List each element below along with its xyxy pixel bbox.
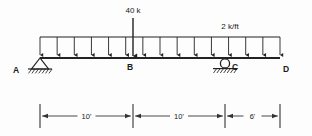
distributed-load-group: 2 k/ft [40, 22, 280, 55]
ground-hatch-tick [42, 69, 45, 73]
ground-hatch-tick [224, 69, 227, 73]
ground-hatch-tick [220, 69, 223, 73]
dimension-segment: 6' [227, 112, 278, 121]
ground-hatch-tick [46, 69, 49, 73]
dimension-label: 6' [250, 112, 256, 121]
beam-diagram: 2 k/ft 40 k ABCD 10'10'6' [0, 0, 312, 136]
dimension-segment: 10' [42, 112, 131, 121]
roller-support-circle [220, 59, 229, 68]
point-load-group: 40 k [125, 6, 141, 56]
support-pin-a [28, 58, 52, 73]
node-label-b: B [127, 62, 133, 72]
ground-hatch-tick [49, 69, 52, 73]
ground-hatch-tick [35, 69, 38, 73]
ground-hatch-tick [214, 69, 217, 73]
node-label-d: D [283, 64, 289, 74]
distributed-load-arrows [40, 37, 280, 55]
ground-hatch-tick [217, 69, 220, 73]
node-labels-group: ABCD [13, 62, 289, 75]
ground-hatch-tick [227, 69, 230, 73]
distributed-load-label: 2 k/ft [221, 22, 239, 31]
point-load-label: 40 k [125, 6, 141, 15]
dimension-chain: 10'10'6' [40, 104, 280, 128]
ground-hatch-tick [32, 69, 35, 73]
pin-support-triangle [32, 58, 49, 69]
dimension-label: 10' [82, 112, 92, 121]
dimension-segment: 10' [135, 112, 223, 121]
dimension-label: 10' [174, 112, 184, 121]
support-ground-hatch [28, 69, 52, 73]
node-label-a: A [13, 65, 19, 75]
ground-hatch-tick [39, 69, 42, 73]
node-label-c: C [232, 62, 238, 72]
beam-diagram-canvas: 2 k/ft 40 k ABCD 10'10'6' [0, 0, 312, 136]
ground-hatch-tick [29, 69, 32, 73]
